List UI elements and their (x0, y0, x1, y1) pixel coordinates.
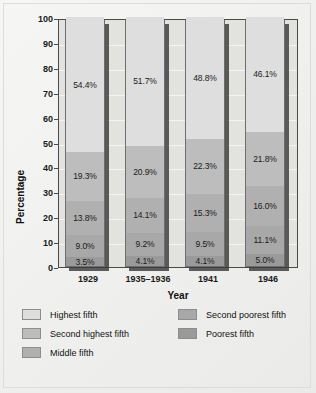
bar-column[interactable]: 4.1%9.5%15.3%22.3%48.8% (185, 20, 225, 267)
bar-segment-value-label: 46.1% (253, 69, 277, 79)
legend-swatch (178, 328, 197, 339)
bar-segment[interactable]: 16.0% (246, 186, 284, 226)
y-tick-label: 90 (1, 39, 53, 49)
bar-segment-value-label: 4.1% (196, 256, 215, 266)
bar-segment-value-label: 9.2% (136, 239, 155, 249)
legend-label: Highest fifth (50, 310, 98, 320)
legend-item[interactable]: Middle fifth (22, 347, 94, 358)
legend-item[interactable]: Second poorest fifth (178, 309, 286, 320)
bar-segment[interactable]: 21.8% (246, 132, 284, 186)
y-tick-label: 30 (1, 188, 53, 198)
bar-segment[interactable]: 4.1% (126, 256, 164, 266)
bar-segment[interactable]: 9.2% (126, 233, 164, 256)
bar-segment[interactable]: 3.5% (66, 257, 104, 266)
legend-swatch (178, 309, 197, 320)
bar-segment[interactable]: 54.4% (66, 17, 104, 152)
bar-segment-value-label: 3.5% (76, 257, 95, 267)
plot-area: 3.5%9.0%13.8%19.3%54.4%4.1%9.2%14.1%20.9… (58, 19, 298, 268)
chart-figure: Percentage 0102030405060708090100 3.5%9.… (0, 0, 316, 393)
bar-segment-value-label: 5.0% (256, 255, 275, 265)
legend-swatch (22, 328, 41, 339)
bar-segment-value-label: 48.8% (193, 73, 217, 83)
bar-segment[interactable]: 5.0% (246, 254, 284, 266)
bar-segment-value-label: 14.1% (133, 210, 157, 220)
bar-column[interactable]: 5.0%11.1%16.0%21.8%46.1% (245, 20, 285, 267)
y-tick-label: 40 (1, 163, 53, 173)
legend-label: Second poorest fifth (206, 310, 286, 320)
bar-segment-value-label: 21.8% (253, 154, 277, 164)
x-tick-label: 1946 (238, 274, 298, 284)
bar-segment[interactable]: 20.9% (126, 146, 164, 198)
bar-segment[interactable]: 46.1% (246, 17, 284, 132)
x-tick-label: 1929 (58, 274, 118, 284)
bar-column[interactable]: 4.1%9.2%14.1%20.9%51.7% (125, 20, 165, 267)
bar-segment[interactable]: 4.1% (186, 256, 224, 266)
y-tick-mark (54, 268, 58, 269)
bar-segment-value-label: 9.5% (196, 239, 215, 249)
bar-segment-value-label: 11.1% (254, 235, 277, 245)
y-tick-label: 20 (1, 213, 53, 223)
bar-segment-value-label: 19.3% (73, 171, 97, 181)
bar-segment[interactable]: 9.5% (186, 232, 224, 256)
stacked-bar[interactable]: 3.5%9.0%13.8%19.3%54.4% (65, 20, 105, 267)
x-axis-title: Year (58, 290, 298, 301)
bar-segment[interactable]: 11.1% (246, 226, 284, 254)
y-tick-label: 50 (1, 139, 53, 149)
bar-segment-value-label: 9.0% (76, 241, 95, 251)
legend-label: Middle fifth (50, 348, 94, 358)
bar-segment[interactable]: 15.3% (186, 194, 224, 232)
bar-segment-value-label: 4.1% (136, 256, 155, 266)
chart-legend: Highest fifthSecond highest fifthMiddle … (10, 309, 306, 371)
bar-segment-value-label: 54.4% (73, 80, 97, 90)
y-tick-label: 10 (1, 238, 53, 248)
y-tick-label: 100 (1, 14, 53, 24)
legend-label: Poorest fifth (206, 329, 254, 339)
stacked-bar[interactable]: 4.1%9.5%15.3%22.3%48.8% (185, 20, 225, 267)
legend-item[interactable]: Second highest fifth (22, 328, 129, 339)
y-tick-label: 60 (1, 114, 53, 124)
bar-segment[interactable]: 13.8% (66, 201, 104, 235)
x-tick-label: 1941 (178, 274, 238, 284)
legend-label: Second highest fifth (50, 329, 129, 339)
legend-swatch (22, 347, 41, 358)
legend-item[interactable]: Highest fifth (22, 309, 98, 320)
bar-segment[interactable]: 51.7% (126, 17, 164, 146)
bar-segment-value-label: 51.7% (133, 76, 157, 86)
bar-segment-value-label: 16.0% (253, 201, 277, 211)
y-tick-label: 80 (1, 64, 53, 74)
stacked-bar[interactable]: 4.1%9.2%14.1%20.9%51.7% (125, 20, 165, 267)
y-tick-label: 0 (1, 263, 53, 273)
legend-item[interactable]: Poorest fifth (178, 328, 254, 339)
bar-segment[interactable]: 14.1% (126, 198, 164, 233)
bar-segment-value-label: 13.8% (73, 213, 97, 223)
bar-segment[interactable]: 19.3% (66, 152, 104, 200)
bar-segment[interactable]: 9.0% (66, 235, 104, 257)
bar-segment-value-label: 20.9% (133, 167, 157, 177)
bar-segment[interactable]: 48.8% (186, 17, 224, 139)
bar-column[interactable]: 3.5%9.0%13.8%19.3%54.4% (65, 20, 105, 267)
bar-segment-value-label: 22.3% (193, 161, 217, 171)
bar-segment[interactable]: 22.3% (186, 139, 224, 195)
x-tick-label: 1935–1936 (118, 274, 178, 284)
legend-swatch (22, 309, 41, 320)
stacked-bar[interactable]: 5.0%11.1%16.0%21.8%46.1% (245, 20, 285, 267)
bar-segment-value-label: 15.3% (193, 208, 217, 218)
y-tick-label: 70 (1, 89, 53, 99)
